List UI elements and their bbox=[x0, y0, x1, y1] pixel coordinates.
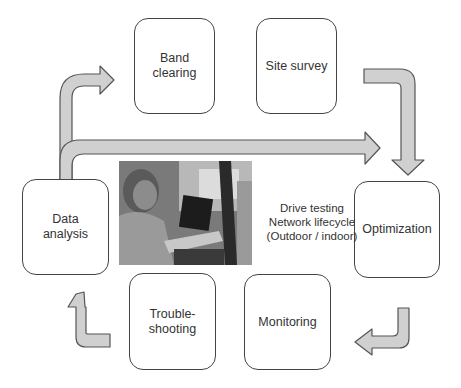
stage-site-survey: Site survey bbox=[256, 18, 337, 114]
stage-label: Band clearing bbox=[153, 51, 197, 81]
stage-troubleshooting: Trouble- shooting bbox=[129, 273, 216, 370]
stage-label: Trouble- shooting bbox=[149, 307, 196, 337]
arrow-to-monitoring bbox=[355, 308, 409, 355]
stage-label: Optimization bbox=[362, 222, 431, 237]
center-caption: Drive testing Network lifecycle (Outdoor… bbox=[258, 201, 366, 243]
stage-label: Site survey bbox=[266, 59, 328, 74]
lifecycle-diagram: Band clearing Site survey Optimization M… bbox=[0, 0, 461, 388]
stage-data-analysis: Data analysis bbox=[22, 179, 109, 275]
stage-label: Monitoring bbox=[258, 315, 316, 330]
arrow-to-optimization bbox=[364, 69, 424, 175]
stage-label: Data analysis bbox=[43, 212, 88, 242]
stage-optimization: Optimization bbox=[354, 181, 440, 278]
stage-band-clearing: Band clearing bbox=[134, 18, 215, 114]
drive-testing-photo bbox=[119, 161, 252, 265]
photo-illustration bbox=[119, 161, 252, 265]
stage-monitoring: Monitoring bbox=[244, 274, 331, 370]
arrow-to-data-analysis bbox=[68, 292, 110, 347]
